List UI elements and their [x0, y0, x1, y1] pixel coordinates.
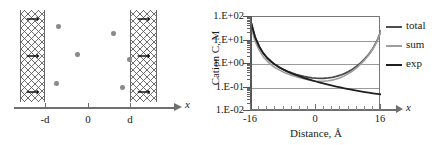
y-minor-tick: [247, 49, 251, 50]
x-minor-tick: [348, 106, 349, 110]
y-minor-tick: [247, 88, 251, 89]
x-minor-tick: [331, 106, 332, 110]
y-minor-tick: [247, 94, 251, 95]
schematic-x-axis-label: x: [185, 98, 190, 110]
plot-frame: [250, 16, 380, 110]
series-line-sum: [251, 26, 381, 81]
charge-arrow-icon: [137, 89, 150, 95]
figure-root: x -d0d x 1.E+021.E+011.E+001.E-011.E-02 …: [0, 0, 442, 145]
y-minor-tick: [247, 45, 251, 46]
x-axis-arrowhead: [396, 105, 403, 113]
x-minor-tick: [274, 106, 275, 110]
schematic-x-tick-label: -d: [35, 113, 55, 125]
chart-legend: totalsumexp: [386, 18, 442, 75]
y-minor-tick: [247, 28, 251, 29]
y-tick-label: 1.E-01: [198, 82, 244, 92]
x-major-tick: [315, 104, 316, 110]
y-tick-label: 1.E+00: [198, 58, 244, 68]
ion-marker: [127, 57, 132, 62]
y-minor-tick: [247, 67, 251, 68]
series-line-exp: [251, 22, 381, 94]
y-minor-tick: [247, 64, 251, 65]
schematic-x-tick-label: 0: [78, 113, 98, 125]
legend-swatch: [386, 26, 402, 28]
series-curves: [251, 17, 381, 111]
legend-item: total: [386, 18, 442, 37]
x-minor-tick: [291, 106, 292, 110]
y-minor-tick: [247, 43, 251, 44]
y-minor-tick: [247, 56, 251, 57]
x-minor-tick: [258, 106, 259, 110]
ion-marker: [120, 85, 125, 90]
y-minor-tick: [247, 17, 251, 18]
x-axis-title: Distance, Å: [252, 127, 380, 139]
y-minor-tick: [247, 21, 251, 22]
schematic-x-axis-line: [14, 107, 176, 109]
y-minor-tick: [247, 72, 251, 73]
x-minor-tick: [283, 106, 284, 110]
y-minor-tick: [247, 99, 251, 100]
y-minor-tick: [247, 23, 251, 24]
right-membrane-slab: [130, 10, 157, 102]
y-minor-tick: [247, 68, 251, 69]
x-major-tick: [250, 104, 251, 110]
legend-item: sum: [386, 37, 442, 56]
y-minor-tick: [247, 42, 251, 43]
x-axis-arrow-label: x: [406, 101, 411, 113]
schematic-x-tick: [88, 103, 89, 109]
y-minor-tick: [247, 96, 251, 97]
x-tick-label: -16: [236, 113, 264, 124]
ion-marker: [56, 24, 61, 29]
y-minor-tick: [247, 25, 251, 26]
x-major-tick: [380, 104, 381, 110]
y-minor-tick: [247, 41, 251, 42]
left-membrane-slab: [20, 10, 45, 102]
y-axis-title: Cation C, M: [209, 16, 221, 100]
y-minor-tick: [247, 52, 251, 53]
y-minor-tick: [247, 75, 251, 76]
x-minor-tick: [266, 106, 267, 110]
x-tick-label: 0: [301, 113, 329, 124]
legend-item: exp: [386, 56, 442, 75]
y-tick-label: 1.E+01: [198, 35, 244, 45]
legend-label: total: [406, 19, 426, 31]
y-minor-tick: [247, 32, 251, 33]
charge-arrow-icon: [26, 89, 39, 95]
y-minor-tick: [247, 20, 251, 21]
legend-swatch: [386, 45, 402, 47]
x-minor-tick: [299, 106, 300, 110]
schematic-x-tick: [130, 103, 131, 109]
series-line-total: [251, 22, 381, 78]
charge-arrow-icon: [26, 53, 39, 59]
y-minor-tick: [247, 18, 251, 19]
charge-arrow-icon: [137, 53, 150, 59]
y-major-tick: [243, 110, 250, 111]
schematic-x-tick: [45, 103, 46, 109]
charge-arrow-icon: [26, 16, 39, 22]
x-minor-tick: [372, 106, 373, 110]
x-minor-tick: [339, 106, 340, 110]
y-tick-label: 1.E+02: [198, 11, 244, 21]
legend-label: exp: [406, 57, 422, 69]
y-minor-tick: [247, 70, 251, 71]
x-minor-tick: [307, 106, 308, 110]
y-minor-tick: [247, 65, 251, 66]
x-minor-tick: [356, 106, 357, 110]
x-minor-tick: [323, 106, 324, 110]
y-minor-tick: [247, 89, 251, 90]
legend-label: sum: [406, 38, 424, 50]
ion-marker: [54, 81, 59, 86]
ion-marker: [75, 52, 80, 57]
concentration-chart-panel: x 1.E+021.E+011.E+001.E-011.E-02 -16016 …: [200, 0, 442, 145]
y-minor-tick: [247, 90, 251, 91]
schematic-x-tick-label: d: [120, 113, 140, 125]
y-minor-tick: [247, 92, 251, 93]
ion-marker: [111, 31, 116, 36]
schematic-panel: x -d0d: [0, 0, 200, 145]
y-minor-tick: [247, 47, 251, 48]
legend-swatch: [386, 64, 402, 66]
y-minor-tick: [247, 79, 251, 80]
x-minor-tick: [364, 106, 365, 110]
x-tick-label: 16: [366, 113, 394, 124]
charge-arrow-icon: [137, 16, 150, 22]
